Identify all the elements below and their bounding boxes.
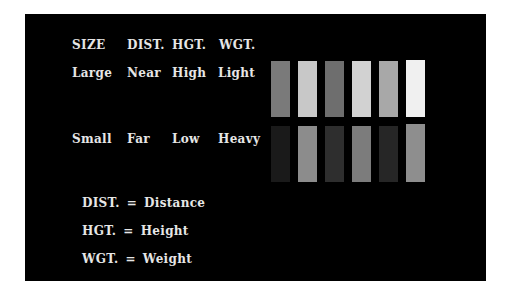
- label-far: Far: [127, 132, 150, 146]
- label-large: Large: [72, 66, 112, 80]
- bar-bottom-4: [352, 126, 371, 182]
- equals-sign: =: [123, 224, 133, 238]
- bar-top-4: [352, 61, 371, 117]
- legend-full: Height: [141, 224, 189, 238]
- equals-sign: =: [126, 252, 136, 266]
- legend-weight: WGT.=Weight: [82, 252, 192, 266]
- legend-abbr: WGT.: [82, 252, 119, 266]
- label-small: Small: [72, 132, 112, 146]
- bar-bottom-3: [325, 126, 344, 182]
- bar-top-1: [271, 61, 290, 117]
- bar-bottom-6: [406, 124, 425, 182]
- bar-top-5: [379, 61, 398, 117]
- bar-top-6: [406, 60, 425, 117]
- legend-abbr: HGT.: [82, 224, 116, 238]
- label-light: Light: [218, 66, 255, 80]
- legend-full: Distance: [144, 196, 205, 210]
- header-size: SIZE: [72, 38, 105, 52]
- equals-sign: =: [127, 196, 137, 210]
- label-high: High: [172, 66, 206, 80]
- label-near: Near: [127, 66, 161, 80]
- label-heavy: Heavy: [218, 132, 260, 146]
- label-low: Low: [172, 132, 200, 146]
- header-weight: WGT.: [219, 38, 256, 52]
- bar-bottom-2: [298, 126, 317, 182]
- bar-top-3: [325, 61, 344, 117]
- header-height: HGT.: [172, 38, 206, 52]
- bar-bottom-5: [379, 126, 398, 182]
- header-distance: DIST.: [127, 38, 165, 52]
- bar-bottom-1: [271, 126, 290, 182]
- bar-top-2: [298, 61, 317, 117]
- legend-distance: DIST.=Distance: [82, 196, 205, 210]
- legend-abbr: DIST.: [82, 196, 120, 210]
- legend-height: HGT.=Height: [82, 224, 189, 238]
- legend-full: Weight: [143, 252, 192, 266]
